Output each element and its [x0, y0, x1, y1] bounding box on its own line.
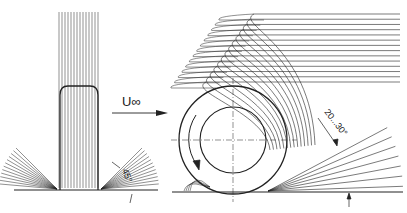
tire-spray-diagram: U∞ 45° 20...30°	[0, 0, 407, 213]
tire-front-outline	[60, 86, 98, 190]
side-angle-label: 20...30°	[322, 107, 349, 138]
velocity-arrow	[112, 110, 168, 116]
velocity-label: U∞	[122, 94, 141, 109]
side-view	[171, 14, 403, 202]
